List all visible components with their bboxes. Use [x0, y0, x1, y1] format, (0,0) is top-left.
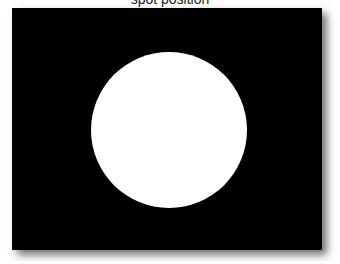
figure-caption: spot position: [0, 0, 340, 7]
light-spot: [91, 52, 247, 208]
image-panel: [12, 8, 322, 250]
